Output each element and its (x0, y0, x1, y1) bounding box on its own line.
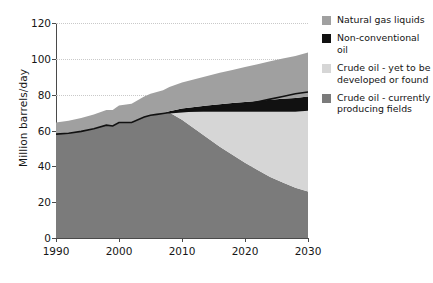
legend-label: Non-conventional oil (337, 32, 432, 55)
legend-label: Crude oil - yet to be developed or found (337, 62, 430, 85)
chart-legend: Natural gas liquidsNon-conventional oilC… (322, 14, 432, 122)
plot-area: 020406080100120 19902000201020202030 (56, 23, 308, 238)
y-tick-label: 80 (38, 89, 51, 101)
legend-label: Crude oil - currently producing fields (337, 92, 430, 115)
chart-container: Million barrels/day 020406080100120 1990… (0, 0, 433, 283)
x-tick-label: 2020 (232, 245, 259, 257)
y-tick-label: 60 (38, 125, 51, 137)
x-tick-mark (245, 238, 246, 242)
legend-swatch (322, 64, 331, 73)
y-axis-label: Million barrels/day (17, 43, 29, 193)
legend-item[interactable]: Crude oil - yet to be developed or found (322, 62, 432, 85)
x-tick-label: 2000 (106, 245, 133, 257)
y-tick-label: 40 (38, 160, 51, 172)
x-tick-mark (308, 238, 309, 242)
x-tick-mark (119, 238, 120, 242)
y-tick-label: 20 (38, 196, 51, 208)
y-tick-label: 100 (31, 53, 51, 65)
legend-item[interactable]: Crude oil - currently producing fields (322, 92, 432, 115)
legend-item[interactable]: Non-conventional oil (322, 32, 432, 55)
legend-swatch (322, 34, 331, 43)
x-tick-label: 1990 (43, 245, 70, 257)
y-tick-label: 120 (31, 17, 51, 29)
stacked-area-series (56, 23, 308, 238)
x-tick-mark (56, 238, 57, 242)
legend-swatch (322, 16, 331, 25)
y-tick-label: 0 (44, 232, 51, 244)
legend-item[interactable]: Natural gas liquids (322, 14, 432, 25)
x-tick-label: 2010 (169, 245, 196, 257)
legend-label: Natural gas liquids (337, 14, 425, 25)
legend-swatch (322, 94, 331, 103)
x-tick-label: 2030 (295, 245, 322, 257)
x-tick-mark (182, 238, 183, 242)
